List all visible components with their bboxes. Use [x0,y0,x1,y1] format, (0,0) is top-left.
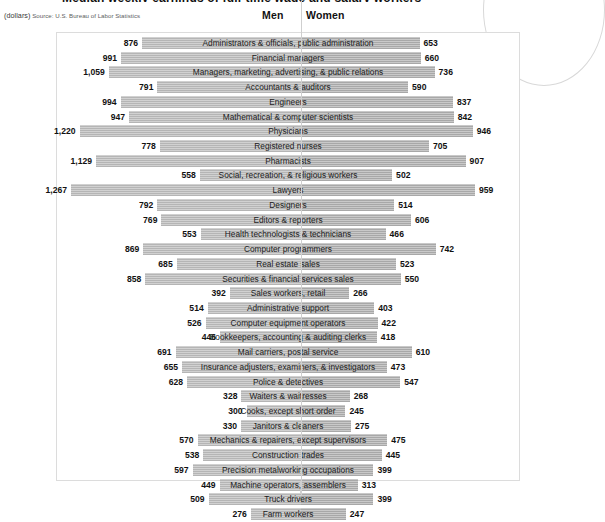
chart-row: 991660Financial managers [57,51,519,66]
value-label-women: 946 [477,125,511,137]
bar-women [301,390,350,402]
chart-row: 691610Mail carriers, postal service [57,345,519,360]
value-label-men: 538 [167,449,199,461]
value-label-women: 736 [439,66,473,78]
value-label-men: 446 [184,331,216,343]
value-label-men: 778 [124,140,156,152]
bar-women [301,140,429,152]
chart-row: 558502Social, recreation, & religious wo… [57,168,519,183]
bar-men [209,493,301,505]
value-label-men: 791 [121,81,153,93]
bar-men [200,169,301,181]
bar-women [301,287,349,299]
bar-men [121,96,301,108]
value-label-men: 526 [170,317,202,329]
bar-women [301,155,466,167]
value-label-men: 328 [205,390,237,402]
value-label-women: 742 [440,243,474,255]
value-label-men: 991 [85,52,117,64]
bar-women [301,273,401,285]
units-label: (dollars) [4,11,30,20]
value-label-women: 399 [377,464,411,476]
chart-title: Median weekly earnings of full-time wage… [62,0,512,2]
value-label-men: 392 [194,287,226,299]
bar-women [301,66,435,78]
value-label-women: 606 [415,214,449,226]
bar-men [187,376,301,388]
value-label-women: 907 [470,155,504,167]
bar-men [157,199,301,211]
chart-row: 446418Bookkeepers, accounting & auditing… [57,330,519,345]
bar-men [193,464,301,476]
value-label-women: 523 [400,258,434,270]
bar-men [96,155,301,167]
chart-row: 628547Police & detectives [57,375,519,390]
bar-women [301,479,358,491]
legend-men: Men [262,9,284,21]
bar-women [301,81,408,93]
value-label-women: 653 [424,37,458,49]
chart-plot-area: 876653Administrators & officials, public… [56,32,520,481]
chart-row: 994837Engineers [57,95,519,110]
value-label-men: 1,059 [73,66,105,78]
value-label-men: 276 [215,508,247,520]
bar-women [301,214,411,226]
value-label-men: 330 [205,420,237,432]
bar-women [301,258,396,270]
bar-women [301,37,420,49]
chart-row: 685523Real estate sales [57,257,519,272]
value-label-women: 418 [381,331,415,343]
chart-row: 392266Sales workers, retail [57,286,519,301]
bar-men [143,243,301,255]
bar-men [201,228,301,240]
bar-women [301,302,374,314]
bar-women [301,434,387,446]
chart-row: 328268Waiters & waitresses [57,389,519,404]
value-label-men: 1,267 [35,184,67,196]
bar-women [301,184,475,196]
bar-women [301,376,400,388]
legend-women: Women [306,9,345,21]
value-label-women: 422 [382,317,416,329]
bar-women [301,125,473,137]
value-label-men: 869 [107,243,139,255]
value-label-women: 475 [391,434,425,446]
chart-row: 778705Registered nurses [57,139,519,154]
chart-row: 876653Administrators & officials, public… [57,36,519,51]
value-label-women: 403 [378,302,412,314]
chart-row: 792514Designers [57,198,519,213]
value-label-women: 959 [479,184,513,196]
bar-women [301,420,351,432]
bar-men [161,214,301,226]
bar-men [71,184,301,196]
bar-women [301,449,382,461]
chart-row: 597399Precision metalworking occupations [57,463,519,478]
value-label-women: 266 [353,287,387,299]
chart-row: 1,129907Pharmacists [57,154,519,169]
bar-men [142,37,301,49]
value-label-men: 691 [140,346,172,358]
value-label-women: 502 [396,169,430,181]
bar-men [203,449,301,461]
bar-men [241,420,301,432]
bar-women [301,96,453,108]
value-label-men: 1,129 [60,155,92,167]
value-label-men: 994 [85,96,117,108]
bar-women [301,243,436,255]
value-label-men: 514 [172,302,204,314]
chart-row: 330275Janitors & cleaners [57,419,519,434]
bar-men [160,140,301,152]
bar-women [301,508,346,520]
chart-row: 570475Mechanics & repairers, except supe… [57,433,519,448]
bar-men [80,125,301,137]
chart-row: 791590Accountants & auditors [57,80,519,95]
chart-row: 509399Truck drivers [57,492,519,507]
source-text: Source: U.S. Bureau of Labor Statistics [32,12,140,19]
value-label-men: 597 [157,464,189,476]
value-label-women: 313 [362,479,396,491]
chart-row: 947842Mathematical & computer scientists [57,110,519,125]
bar-men [176,346,301,358]
value-label-women: 247 [350,508,384,520]
value-label-men: 509 [173,493,205,505]
source-note: (dollars) Source: U.S. Bureau of Labor S… [4,11,140,20]
